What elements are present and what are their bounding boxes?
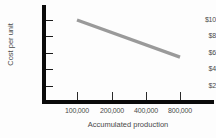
chart-figure: $10 $8 $6 $4 $2 100,000 200,000 400,000 … [0, 0, 216, 138]
y-tick-label: $2 [192, 82, 216, 89]
x-tick-mark [180, 92, 181, 100]
y-axis-title: Cost per unit [6, 13, 15, 77]
y-tick-label: $8 [192, 32, 216, 39]
y-tick-label: $10 [192, 16, 216, 23]
x-tick-label: 800,000 [168, 107, 192, 114]
y-tick-mark [46, 86, 53, 87]
series-layer [0, 0, 216, 138]
x-axis-line [42, 100, 214, 104]
y-tick-mark [46, 69, 53, 70]
x-tick-mark [146, 92, 147, 100]
x-tick-label: 100,000 [65, 107, 89, 114]
data-series-line [77, 20, 180, 57]
y-tick-mark [46, 53, 53, 54]
x-axis-title: Accumulated production [42, 120, 214, 129]
x-tick-label: 400,000 [134, 107, 158, 114]
y-tick-mark [46, 20, 53, 21]
y-tick-label: $4 [192, 65, 216, 72]
x-tick-label: 200,000 [100, 107, 124, 114]
x-tick-mark [112, 92, 113, 100]
y-tick-mark [46, 36, 53, 37]
x-tick-mark [77, 92, 78, 100]
y-tick-label: $6 [192, 49, 216, 56]
